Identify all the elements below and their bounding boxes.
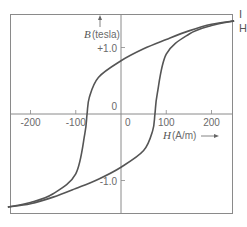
x-tick-label: 100 bbox=[158, 117, 175, 128]
x-tick-label: -100 bbox=[66, 117, 86, 128]
x-tick-label: 200 bbox=[203, 117, 220, 128]
x-tick-label: 0 bbox=[125, 117, 131, 128]
y-tick-label: +1.0 bbox=[97, 43, 117, 54]
y-tick-label: 0 bbox=[111, 101, 117, 112]
y-label-var: B bbox=[84, 28, 91, 40]
x-axis-label: H (A/m) bbox=[162, 129, 219, 141]
x-label-var: H bbox=[162, 129, 172, 141]
arrow-right-icon bbox=[214, 134, 219, 138]
cropped-text-fragment: H bbox=[239, 22, 247, 34]
arrow-up-icon bbox=[98, 15, 102, 20]
x-tick-label: -200 bbox=[20, 117, 40, 128]
cropped-text-fragment: I bbox=[239, 8, 242, 20]
hysteresis-chart: -200-1000100200 +1.00-1.0 B (tesla) H (A… bbox=[0, 0, 247, 227]
y-axis-label: B (tesla) bbox=[84, 15, 120, 40]
y-label-unit: (tesla) bbox=[92, 29, 120, 40]
x-label-unit: (A/m) bbox=[172, 130, 196, 141]
x-ticks: -200-1000100200 bbox=[20, 110, 220, 128]
